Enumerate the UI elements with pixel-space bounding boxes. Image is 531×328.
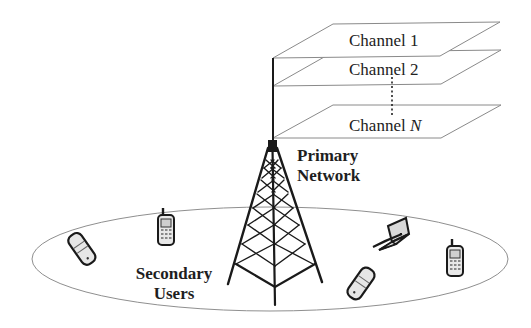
channel-n-prefix: Channel (349, 116, 410, 135)
laptop-icon (373, 218, 409, 250)
channel-2-label: Channel 2 (349, 61, 418, 78)
channel-1-label: Channel 1 (349, 32, 418, 49)
channel-n-variable: N (410, 116, 421, 135)
primary-label-line1: Primary (297, 146, 360, 166)
primary-label-line2: Network (297, 166, 360, 186)
flip-phone-icon (345, 265, 377, 301)
cell-phone-icon (447, 239, 463, 276)
cognitive-radio-diagram (0, 0, 531, 328)
flip-phone-icon (66, 231, 98, 267)
secondary-label-line1: Secondary (126, 264, 222, 284)
cell-phone-icon (158, 208, 174, 245)
coverage-area (32, 207, 508, 311)
primary-network-label: Primary Network (297, 146, 360, 186)
secondary-users-label: Secondary Users (126, 264, 222, 304)
channel-n-label: Channel N (349, 117, 421, 134)
secondary-label-line2: Users (126, 284, 222, 304)
